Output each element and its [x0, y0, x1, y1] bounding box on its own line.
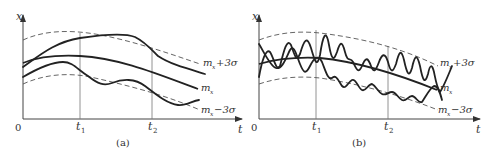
- lower-bound-label-a: m x −3σ: [201, 104, 237, 117]
- sample-curve-2-b: [259, 44, 442, 102]
- upper-bound-curve-a: [23, 32, 200, 64]
- upper-bound-curve-b: [259, 32, 438, 66]
- panel-a: x 0 t t 1 t 2 m x +3σ m x m x −3σ (a): [15, 10, 243, 148]
- svg-text:−3σ: −3σ: [451, 104, 474, 115]
- random-process-figure: x 0 t t 1 t 2 m x +3σ m x m x −3σ (a): [0, 0, 491, 155]
- panel-b: x 0 t t 1 t 2 m x +3σ m x m x −3σ (b): [251, 10, 481, 148]
- sample-curve-2-a: [23, 62, 199, 105]
- t1-label-b: t 1: [312, 120, 321, 135]
- svg-text:2: 2: [153, 127, 157, 135]
- svg-text:+3σ: +3σ: [453, 57, 476, 68]
- y-axis-label-a: x: [16, 10, 23, 23]
- svg-text:x: x: [449, 88, 453, 95]
- mean-label-a: m x: [201, 82, 214, 95]
- caption-a: (a): [116, 137, 130, 148]
- svg-text:1: 1: [317, 127, 321, 135]
- x-axis-label-a: t: [238, 123, 243, 136]
- mean-label-b: m x: [440, 82, 453, 95]
- origin-label-b: 0: [251, 122, 257, 133]
- t2-label-a: t 2: [148, 120, 157, 135]
- svg-text:+3σ: +3σ: [216, 57, 239, 68]
- upper-bound-label-b: m x +3σ: [440, 57, 476, 70]
- svg-text:x: x: [210, 88, 214, 95]
- sample-curve-1-a: [23, 35, 205, 74]
- y-axis-label-b: x: [252, 10, 259, 23]
- svg-text:−3σ: −3σ: [214, 104, 237, 115]
- svg-text:2: 2: [389, 127, 393, 135]
- lower-bound-label-b: m x −3σ: [438, 104, 474, 117]
- svg-text:1: 1: [81, 127, 85, 135]
- t2-label-b: t 2: [384, 120, 393, 135]
- t1-label-a: t 1: [76, 120, 85, 135]
- caption-b: (b): [352, 137, 366, 148]
- x-axis-label-b: t: [476, 123, 481, 136]
- origin-label-a: 0: [15, 122, 21, 133]
- upper-bound-label-a: m x +3σ: [203, 57, 239, 70]
